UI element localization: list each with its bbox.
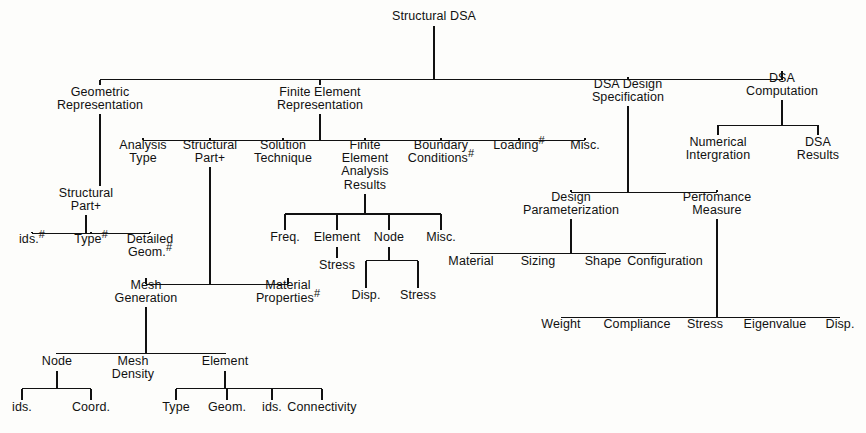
- tree-node-label: Representation: [277, 99, 363, 112]
- tree-node-type2: Type: [162, 401, 190, 415]
- tree-node-material: Material: [448, 255, 493, 269]
- tree-node-label: Conditions#: [408, 152, 474, 165]
- tree-node-label: Loading#: [493, 139, 544, 153]
- tree-node-dsares: DSAResults: [797, 136, 839, 162]
- tree-node-label: ids.#: [19, 233, 45, 247]
- tree-node-miscfe: Misc.: [570, 139, 600, 153]
- tree-node-antype: AnalysisType: [119, 139, 166, 165]
- tree-node-label: Computation: [746, 85, 818, 98]
- tree-node-label: Part+: [183, 152, 238, 165]
- tree-node-label: Specification: [592, 91, 664, 104]
- tree-node-gsp: StructuralPart+: [59, 187, 114, 213]
- tree-node-label: Results: [797, 149, 839, 162]
- tree-node-ids3: ids.: [262, 401, 282, 415]
- tree-node-freq: Freq.: [270, 231, 300, 245]
- tree-node-nstress: Stress: [400, 289, 436, 303]
- tree-node-label: Eigenvalue: [744, 318, 807, 332]
- tree-node-loading: Loading#: [493, 139, 544, 153]
- tree-node-label: Misc.: [426, 231, 456, 245]
- tree-node-label: Properties#: [256, 292, 320, 305]
- tree-node-label: Technique: [254, 152, 312, 165]
- tree-node-label: Intergration: [686, 149, 750, 162]
- tree-node-bc: BoundaryConditions#: [408, 139, 474, 165]
- tree-node-label: Stress: [687, 318, 723, 332]
- tree-node-label: Node: [42, 355, 72, 369]
- tree-node-label: Material: [448, 255, 493, 269]
- tree-node-matprop: MaterialProperties#: [256, 279, 320, 305]
- tree-node-label: Disp.: [352, 289, 381, 303]
- tree-node-detgeom: DetailedGeom.#: [127, 233, 174, 259]
- tree-node-designparam: DesignParameterization: [523, 191, 619, 217]
- tree-node-label: Connectivity: [287, 401, 356, 415]
- tree-node-weight: Weight: [541, 318, 580, 332]
- tree-node-label: Part+: [59, 200, 114, 213]
- tree-node-label: Misc.: [570, 139, 600, 153]
- tree-node-label: Element: [314, 231, 361, 245]
- tree-node-label: Type: [162, 401, 190, 415]
- tree-node-ndisp: Disp.: [352, 289, 381, 303]
- tree-node-pmdisp: Disp.: [826, 318, 855, 332]
- tree-node-label: Density: [112, 368, 154, 381]
- tree-node-soltech: SolutionTechnique: [254, 139, 312, 165]
- tree-node-dsaspec: DSA DesignSpecification: [592, 78, 664, 104]
- tree-node-label: ids.: [262, 401, 282, 415]
- tree-node-dsacomp: DSAComputation: [746, 72, 818, 98]
- tree-node-label: Disp.: [826, 318, 855, 332]
- tree-node-label: Type: [119, 152, 166, 165]
- tree-node-label: Generation: [115, 292, 178, 305]
- tree-node-label: Geom.#: [127, 246, 174, 259]
- tree-node-label: Element: [202, 355, 249, 369]
- tree-node-connect: Connectivity: [287, 401, 356, 415]
- tree-node-estress: Stress: [319, 259, 355, 273]
- tree-node-ids1: ids.#: [19, 233, 45, 247]
- tree-node-miscfear: Misc.: [426, 231, 456, 245]
- tree-node-label: Stress: [400, 289, 436, 303]
- tree-node-eigen: Eigenvalue: [744, 318, 807, 332]
- tree-node-meshgen: MeshGeneration: [115, 279, 178, 305]
- tree-node-type1: Type#: [74, 233, 108, 247]
- tree-node-label: Analysis: [341, 165, 388, 178]
- tree-node-fear: FiniteElementAnalysisResults: [341, 139, 388, 192]
- tree-node-label: Structural DSA: [392, 10, 476, 24]
- tree-node-config: Configuration: [627, 255, 703, 269]
- tree-node-label: Results: [341, 179, 388, 192]
- tree-node-node1: Node: [374, 231, 404, 245]
- tree-node-label: Configuration: [627, 255, 703, 269]
- tree-node-label: Compliance: [603, 318, 670, 332]
- tree-node-label: Freq.: [270, 231, 300, 245]
- tree-node-label: Geom.: [208, 401, 246, 415]
- diagram-canvas: Structural DSAGeometricRepresentationFin…: [0, 0, 866, 433]
- tree-node-label: Shape: [585, 255, 622, 269]
- tree-node-label: Parameterization: [523, 204, 619, 217]
- tree-node-label: Coord.: [72, 401, 110, 415]
- tree-node-element1: Element: [314, 231, 361, 245]
- tree-node-compliance: Compliance: [603, 318, 670, 332]
- tree-node-geom2: Geom.: [208, 401, 246, 415]
- tree-node-label: Type#: [74, 233, 108, 247]
- tree-node-meshdens: MeshDensity: [112, 355, 154, 381]
- tree-node-element2: Element: [202, 355, 249, 369]
- tree-node-geom: GeometricRepresentation: [57, 86, 143, 112]
- tree-node-ids2: ids.: [12, 401, 32, 415]
- tree-node-label: Sizing: [521, 255, 556, 269]
- tree-node-label: Stress: [319, 259, 355, 273]
- tree-node-fe: Finite ElementRepresentation: [277, 86, 363, 112]
- tree-node-perfmeas: PerfomanceMeasure: [683, 191, 751, 217]
- tree-node-label: ids.: [12, 401, 32, 415]
- tree-node-sizing: Sizing: [521, 255, 556, 269]
- tree-node-label: Node: [374, 231, 404, 245]
- tree-node-label: Representation: [57, 99, 143, 112]
- tree-node-coord: Coord.: [72, 401, 110, 415]
- tree-node-label: Weight: [541, 318, 580, 332]
- tree-node-label: Measure: [683, 204, 751, 217]
- tree-node-pmstress: Stress: [687, 318, 723, 332]
- tree-node-numint: NumericalIntergration: [686, 136, 750, 162]
- tree-node-node2: Node: [42, 355, 72, 369]
- tree-node-fesp: StructuralPart+: [183, 139, 238, 165]
- tree-node-shape: Shape: [585, 255, 622, 269]
- tree-node-root: Structural DSA: [392, 10, 476, 24]
